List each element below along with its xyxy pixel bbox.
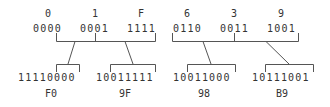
output-binary-1: 10011111 [96, 72, 154, 83]
nibble-1: 0011 [220, 23, 249, 34]
nibble-1: 0001 [80, 23, 109, 34]
nibble-2: 1111 [127, 23, 156, 34]
connector-right [125, 42, 133, 65]
connector-left [203, 42, 211, 65]
output-binary-0: 10011000 [173, 72, 231, 83]
output-hex-1: B9 [276, 88, 288, 99]
diagram-canvas: 0 1 F 0000 0001 1111 11110000 10011111 F… [0, 0, 330, 107]
output-hex-0: F0 [45, 88, 57, 99]
output-hex-1: 9F [119, 88, 131, 99]
hex-nibble-regroup-diagram: 0 1 F 0000 0001 1111 11110000 10011111 F… [0, 0, 330, 107]
group-left: 0 1 F 0000 0001 1111 11110000 10011111 F… [18, 8, 156, 99]
top-bracket [57, 33, 156, 42]
lower-bracket-right [266, 65, 314, 73]
output-binary-0: 11110000 [18, 72, 76, 83]
group-right: 6 3 9 0110 0011 1001 10011000 10111001 9… [173, 8, 314, 99]
lower-bracket-right [111, 65, 156, 73]
connector-left [68, 42, 75, 65]
hex-input-1: 3 [231, 8, 237, 19]
nibble-0: 0110 [173, 23, 202, 34]
nibble-2: 1001 [267, 23, 296, 34]
output-binary-1: 10111001 [252, 72, 310, 83]
hex-input-0: 6 [184, 8, 190, 19]
connector-right [266, 42, 289, 65]
lower-bracket-left [57, 65, 80, 73]
top-bracket [173, 33, 299, 42]
nibble-0: 0000 [33, 23, 62, 34]
hex-input-0: 0 [45, 8, 51, 19]
hex-input-2: F [138, 8, 144, 19]
hex-input-1: 1 [92, 8, 98, 19]
output-hex-0: 98 [198, 88, 210, 99]
lower-bracket-left [188, 65, 236, 73]
hex-input-2: 9 [278, 8, 284, 19]
